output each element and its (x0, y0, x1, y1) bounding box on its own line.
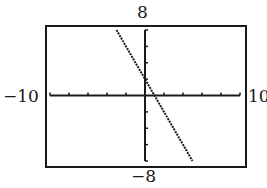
axes (50, 30, 240, 161)
graph-window (0, 0, 267, 188)
